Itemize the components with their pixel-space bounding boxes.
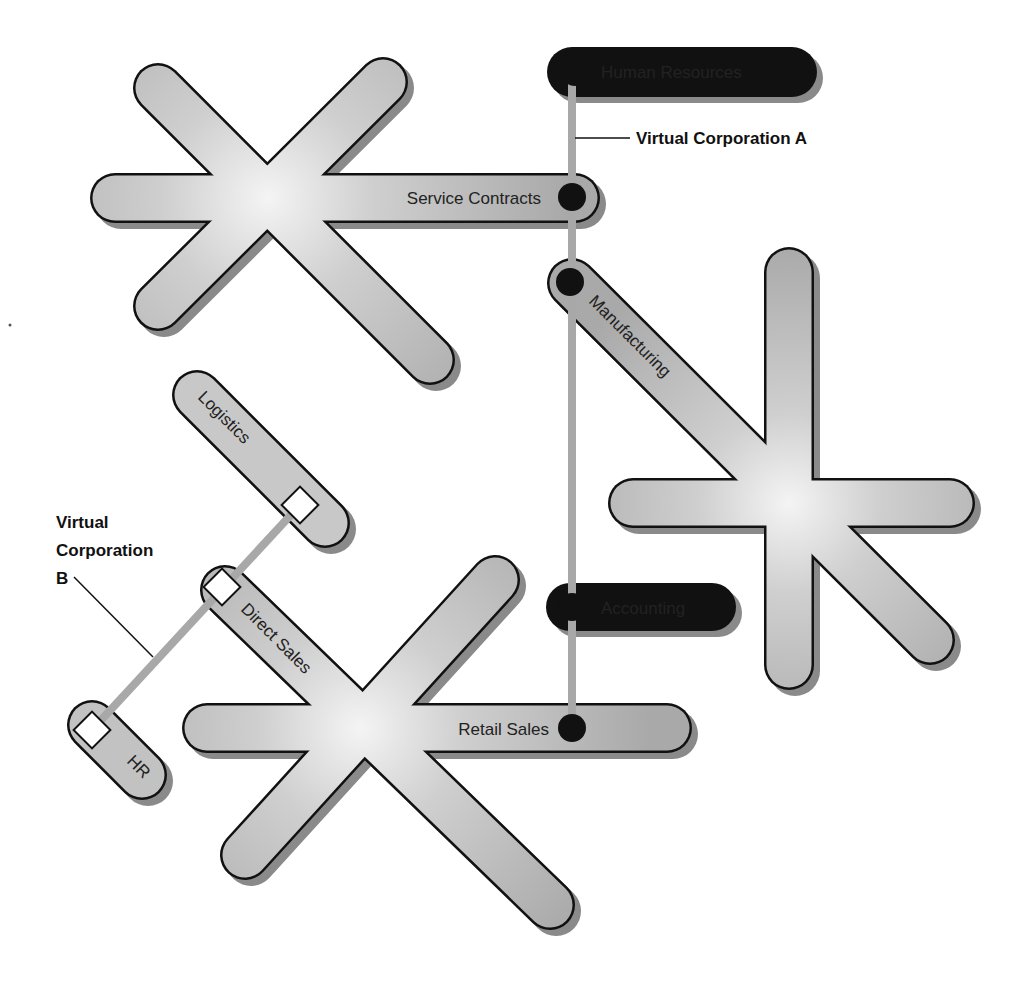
callout-virtual-corporation-a: Virtual Corporation A xyxy=(636,129,807,148)
node-accounting-marker[interactable] xyxy=(558,593,586,621)
label-human-resources: Human Resources xyxy=(601,63,742,82)
label-accounting: Accounting xyxy=(601,599,685,618)
label-service-contracts: Service Contracts xyxy=(407,189,541,208)
callout-virtual-corporation-b-line1: Virtual xyxy=(56,513,109,532)
node-human-resources-marker[interactable] xyxy=(561,58,589,86)
stray-dot xyxy=(9,324,12,327)
label-retail-sales: Retail Sales xyxy=(458,720,549,739)
node-service-contracts-marker[interactable] xyxy=(558,183,586,211)
node-retail-sales-marker[interactable] xyxy=(558,714,586,742)
callout-virtual-corporation-b-line3: B xyxy=(56,569,68,588)
star-cluster-a xyxy=(115,82,581,366)
callout-virtual-corporation-b-line2: Corporation xyxy=(56,541,153,560)
node-manufacturing-marker[interactable] xyxy=(556,268,584,296)
virtual-corporation-diagram: Human Resources Service Contracts Manufa… xyxy=(0,0,1014,1006)
corp-b-leader-line xyxy=(74,577,153,657)
